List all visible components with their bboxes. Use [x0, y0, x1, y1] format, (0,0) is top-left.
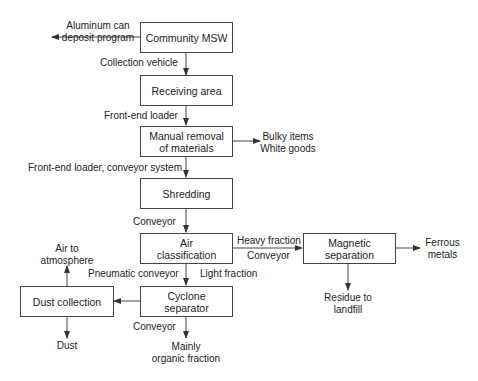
- box-label: Dust collection: [33, 296, 101, 308]
- edge-label: Front-end loader: [104, 110, 178, 122]
- edge-label: Front-end loader, conveyor system: [28, 162, 182, 174]
- edge-label: Collection vehicle: [100, 57, 178, 69]
- box-label: separator: [164, 302, 208, 314]
- box-label: Magnetic: [328, 237, 371, 249]
- receiving-area-box: Receiving area: [140, 75, 233, 106]
- output-line: atmosphere: [37, 255, 97, 267]
- edge-label: Conveyor: [247, 250, 290, 262]
- output-ferrous: Ferrousmetals: [420, 237, 465, 260]
- edge-label: Conveyor: [133, 321, 176, 333]
- edge-label: Pneumatic conveyor: [88, 268, 179, 280]
- output-air: Air toatmosphere: [37, 243, 97, 266]
- manual-removal-box: Manual removalof materials: [140, 126, 233, 157]
- air-classification-box: Airclassification: [140, 233, 233, 264]
- output-organic: Mainlyorganic fraction: [146, 341, 226, 364]
- output-line: landfill: [318, 304, 378, 316]
- box-label: Shredding: [163, 188, 211, 200]
- cyclone-separator-box: Cycloneseparator: [140, 286, 233, 317]
- box-label: Receiving area: [151, 85, 221, 97]
- output-line: Ferrous: [420, 237, 465, 249]
- flow-arrows: [0, 0, 478, 381]
- box-label: Air: [180, 237, 193, 249]
- output-residue: Residue tolandfill: [318, 292, 378, 315]
- output-line: Bulky items: [256, 131, 320, 143]
- output-line: Aluminum can: [60, 20, 136, 32]
- dust-collection-box: Dust collection: [20, 286, 114, 317]
- output-line: Residue to: [318, 292, 378, 304]
- output-line: metals: [420, 249, 465, 261]
- output-aluminum: Aluminum candeposit program: [60, 20, 136, 43]
- community-msw-box: Community MSW: [140, 22, 233, 53]
- output-line: White goods: [256, 143, 320, 155]
- box-label: classification: [157, 249, 217, 261]
- output-line: deposit program: [60, 32, 136, 44]
- box-label: Manual removal: [149, 130, 224, 142]
- edge-label: Heavy fraction: [237, 235, 301, 247]
- output-dust: Dust: [47, 340, 87, 352]
- output-line: Mainly: [146, 341, 226, 353]
- output-bulky: Bulky itemsWhite goods: [256, 131, 320, 154]
- magnetic-separation-box: Magneticseparation: [303, 233, 396, 264]
- box-label: of materials: [159, 142, 213, 154]
- edge-label: Conveyor: [133, 216, 176, 228]
- box-label: Community MSW: [146, 32, 228, 44]
- box-label: Cyclone: [168, 290, 206, 302]
- output-line: organic fraction: [146, 353, 226, 365]
- edge-label: Light fraction: [200, 268, 257, 280]
- box-label: separation: [325, 249, 374, 261]
- shredding-box: Shredding: [140, 178, 233, 209]
- output-line: Air to: [37, 243, 97, 255]
